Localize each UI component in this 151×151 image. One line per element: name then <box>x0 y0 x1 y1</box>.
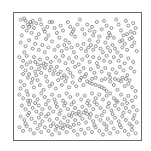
scatter-plot <box>0 0 151 151</box>
